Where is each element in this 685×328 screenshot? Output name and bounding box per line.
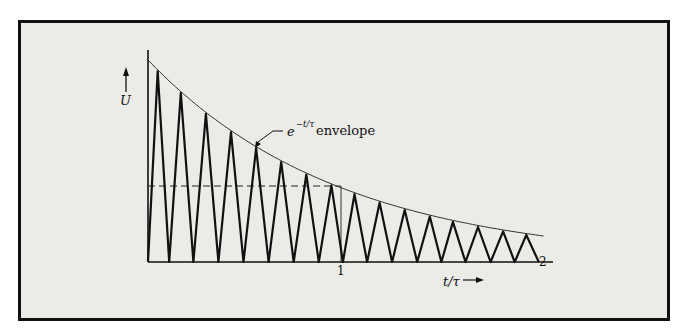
envelope-label-exponent: −t/τ (296, 119, 314, 129)
envelope-label-text: envelope (316, 123, 375, 138)
x-arrow-icon (476, 277, 484, 283)
envelope-curve (148, 60, 544, 236)
envelope-label-base: e (287, 124, 295, 139)
y-arrow-icon (123, 67, 129, 76)
x-axis-label: t/τ (443, 274, 461, 289)
x-tick-1: 1 (337, 264, 345, 278)
oscillation-curve (148, 71, 539, 262)
x-tick-2: 2 (539, 255, 547, 269)
y-axis-label: U (120, 93, 132, 108)
energy-decay-diagram: e −t/τ envelope U 1 2 t/τ (0, 0, 685, 328)
